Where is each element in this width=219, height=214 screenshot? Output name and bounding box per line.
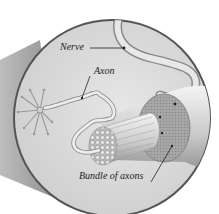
nerve-label: Nerve — [60, 42, 84, 52]
diagram-graphic — [0, 0, 219, 214]
axon-label: Axon — [94, 66, 115, 76]
nerve-diagram: Nerve Axon Bundle of axons — [0, 0, 219, 214]
bundle-of-axons-label: Bundle of axons — [79, 171, 143, 181]
axon-bundle-end — [89, 127, 117, 165]
